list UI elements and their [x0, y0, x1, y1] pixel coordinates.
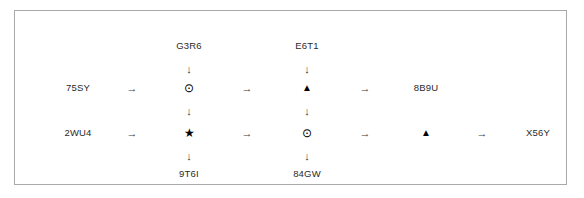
arrow-down-4: ↓: [186, 151, 192, 162]
arrow-down-1: ↓: [304, 64, 310, 75]
row1-arrow-right-5: →: [360, 83, 371, 94]
arrow-down-3: ↓: [304, 106, 310, 117]
row2-label-x56y: X56Y: [526, 128, 550, 138]
row2-arrow-right-3: →: [242, 128, 253, 139]
row2-arrow-right-1: →: [127, 128, 138, 139]
row1-arrow-right-1: →: [127, 83, 138, 94]
row2-triangle-icon: ▲: [421, 128, 431, 138]
row1-triangle-icon: ▲: [302, 83, 312, 93]
arrow-down-2: ↓: [186, 106, 192, 117]
diagram-frame: G3R6E6T19T6I84GW75SY→⊙→▲→8B9U2WU4→★→⊙→▲→…: [14, 10, 567, 185]
arrow-down-5: ↓: [304, 151, 310, 162]
top-label-e6t1: E6T1: [295, 41, 319, 51]
row1-label-75sy: 75SY: [66, 83, 90, 93]
row2-arrow-right-7: →: [477, 128, 488, 139]
row1-circled-dot-icon: ⊙: [184, 82, 194, 94]
diagram-canvas: G3R6E6T19T6I84GW75SY→⊙→▲→8B9U2WU4→★→⊙→▲→…: [0, 0, 584, 198]
row1-arrow-right-3: →: [242, 83, 253, 94]
arrow-down-0: ↓: [186, 64, 192, 75]
row2-arrow-right-5: →: [360, 128, 371, 139]
row2-label-2wu4: 2WU4: [64, 128, 91, 138]
top-label-g3r6: G3R6: [176, 41, 202, 51]
bottom-label-84gw: 84GW: [293, 169, 321, 179]
row1-label-8b9u: 8B9U: [414, 83, 439, 93]
row2-circled-dot-icon: ⊙: [302, 127, 312, 139]
bottom-label-9t6i: 9T6I: [179, 169, 199, 179]
row2-star-icon: ★: [184, 127, 195, 139]
